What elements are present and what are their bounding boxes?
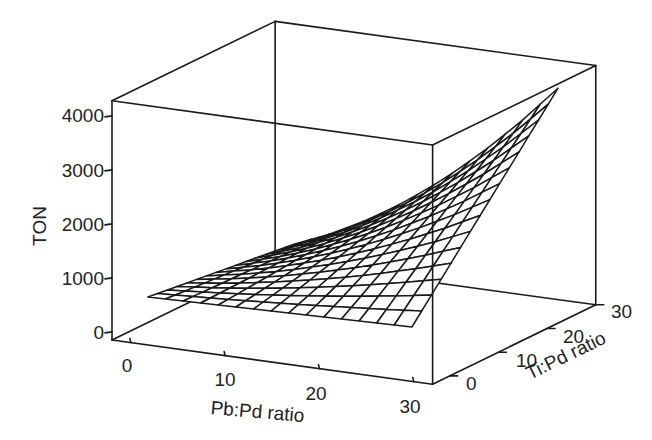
z-tick-label-1000: 1000 bbox=[62, 268, 104, 289]
z-tick-label-0: 0 bbox=[93, 322, 104, 343]
x-tick-label-0: 0 bbox=[122, 355, 133, 376]
surface-plot: 0 1000 2000 3000 4000 TON 0 10 20 30 Pb:… bbox=[0, 0, 652, 440]
x-axis-label: Pb:Pd ratio bbox=[210, 397, 305, 426]
z-tick bbox=[105, 278, 112, 279]
x-tick-label-20: 20 bbox=[305, 383, 326, 404]
z-tick-label-2000: 2000 bbox=[62, 214, 104, 235]
z-tick-label-3000: 3000 bbox=[62, 160, 104, 181]
x-tick bbox=[413, 378, 414, 382]
y-tick-label-0: 0 bbox=[466, 373, 477, 394]
x-tick-label-10: 10 bbox=[214, 369, 235, 390]
z-tick bbox=[105, 170, 112, 171]
surface-cell bbox=[531, 88, 558, 119]
x-tick bbox=[130, 339, 131, 343]
z-tick bbox=[105, 116, 112, 117]
y-tick-label-30: 30 bbox=[611, 301, 632, 322]
z-tick bbox=[105, 224, 112, 225]
x-tick bbox=[224, 352, 225, 356]
box-edge-back-top bbox=[275, 21, 596, 65]
box-edge-front-bottom bbox=[112, 340, 433, 384]
box-edge-front-top bbox=[112, 101, 433, 145]
x-tick bbox=[318, 365, 319, 369]
z-axis: 0 1000 2000 3000 4000 TON bbox=[29, 105, 112, 343]
y-axis: 0 10 20 30 Ti:Pd ratio bbox=[450, 301, 632, 394]
x-tick-label-30: 30 bbox=[399, 396, 420, 417]
z-tick-label-4000: 4000 bbox=[62, 105, 104, 126]
x-axis: 0 10 20 30 Pb:Pd ratio bbox=[122, 339, 421, 426]
z-axis-label: TON bbox=[29, 206, 50, 246]
box-edge-left-top bbox=[112, 21, 275, 100]
z-tick bbox=[105, 332, 112, 333]
z-axis-ticks bbox=[105, 116, 112, 333]
